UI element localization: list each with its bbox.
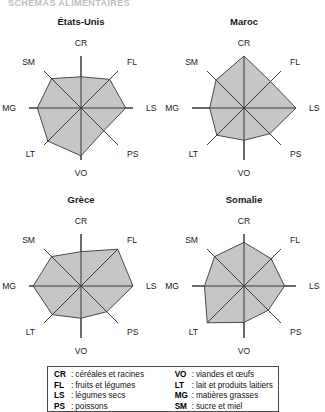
legend-item: MG:matières grasses — [175, 391, 274, 402]
legend-item: PS:poissons — [54, 402, 169, 412]
legend-item: FL:fruits et légumes — [54, 381, 169, 392]
axis-label-mg: MG — [165, 103, 179, 113]
legend-box: CR:céréales et racines FL:fruits et légu… — [47, 366, 279, 412]
axis-label-ls: LS — [146, 103, 157, 113]
radar-data-polygon — [204, 242, 284, 322]
axis-label-lt: LT — [189, 327, 199, 337]
radar-panel-somalie: Somalie CRFLLSPSVOLTMGSM — [163, 194, 325, 372]
legend-column-left: CR:céréales et racines FL:fruits et légu… — [54, 370, 169, 412]
legend-text: sucre et miel — [196, 402, 242, 412]
axis-label-vo: VO — [238, 168, 251, 178]
radar-chart-somalie: CRFLLSPSVOLTMGSM — [163, 206, 325, 370]
axis-label-vo: VO — [75, 346, 88, 356]
legend-text: fruits et légumes — [75, 381, 135, 392]
axis-label-sm: SM — [22, 57, 35, 67]
axis-label-mg: MG — [165, 281, 179, 291]
axis-label-ps: PS — [290, 327, 302, 337]
axis-label-cr: CR — [238, 38, 250, 48]
radar-data-polygon — [37, 77, 125, 156]
axis-label-sm: SM — [185, 235, 198, 245]
radar-panel-etats-unis: États-Unis CRFLLSPSVOLTMGSM — [0, 16, 162, 194]
legend-text: céréales et racines — [75, 370, 144, 381]
legend-text: lait et produits laitiers — [196, 381, 273, 392]
legend-item: LT:lait et produits laitiers — [175, 381, 274, 392]
legend-abbr: VO — [175, 370, 192, 381]
radar-axes-overlay — [192, 56, 296, 160]
axis-label-lt: LT — [26, 327, 36, 337]
radar-chart-etats-unis: CRFLLSPSVOLTMGSM — [0, 28, 162, 192]
axis-label-ls: LS — [309, 281, 320, 291]
axis-label-fl: FL — [127, 57, 137, 67]
axis-label-ls: LS — [146, 281, 157, 291]
axis-label-fl: FL — [290, 57, 300, 67]
radar-data-polygon — [210, 56, 296, 140]
panel-title-somalie: Somalie — [163, 194, 325, 205]
legend-item: LS:légumes secs — [54, 391, 169, 402]
axis-label-cr: CR — [238, 216, 250, 226]
legend-text: poissons — [75, 402, 107, 412]
radar-axes-overlay — [29, 234, 133, 338]
axis-label-ps: PS — [127, 149, 139, 159]
axis-label-ps: PS — [290, 149, 302, 159]
panel-title-maroc: Maroc — [163, 16, 325, 27]
legend-abbr: FL — [54, 381, 71, 392]
legend-text: matières grasses — [196, 391, 258, 402]
radar-chart-maroc: CRFLLSPSVOLTMGSM — [163, 28, 325, 192]
axis-label-mg: MG — [2, 281, 16, 291]
axis-label-fl: FL — [127, 235, 137, 245]
legend-abbr: LT — [175, 381, 192, 392]
legend-item: VO:viandes et œufs — [175, 370, 274, 381]
axis-label-ls: LS — [309, 103, 320, 113]
legend-abbr: LS — [54, 391, 71, 402]
figure-caption: SCHEMAS ALIMENTAIRES — [8, 0, 130, 8]
axis-label-ps: PS — [127, 327, 139, 337]
panel-title-etats-unis: États-Unis — [0, 16, 162, 27]
axis-label-fl: FL — [290, 235, 300, 245]
legend-item: CR:céréales et racines — [54, 370, 169, 381]
radar-axes-overlay — [192, 234, 296, 338]
legend-text: viandes et œufs — [196, 370, 254, 381]
axis-label-sm: SM — [185, 57, 198, 67]
legend-abbr: CR — [54, 370, 71, 381]
radar-axes-overlay — [29, 56, 133, 160]
legend-abbr: SM — [175, 402, 192, 412]
axis-label-lt: LT — [26, 149, 36, 159]
axis-label-lt: LT — [189, 149, 199, 159]
legend-abbr: MG — [175, 391, 192, 402]
radar-panel-grece: Grèce CRFLLSPSVOLTMGSM — [0, 194, 162, 372]
legend-text: légumes secs — [75, 391, 125, 402]
axis-label-cr: CR — [75, 38, 87, 48]
radar-chart-grece: CRFLLSPSVOLTMGSM — [0, 206, 162, 370]
axis-label-vo: VO — [238, 346, 251, 356]
axis-label-vo: VO — [75, 168, 88, 178]
axis-label-cr: CR — [75, 216, 87, 226]
radar-panel-maroc: Maroc CRFLLSPSVOLTMGSM — [163, 16, 325, 194]
legend-column-right: VO:viandes et œufs LT:lait et produits l… — [175, 370, 274, 412]
axis-label-mg: MG — [2, 103, 16, 113]
axis-label-sm: SM — [22, 235, 35, 245]
legend-abbr: PS — [54, 402, 71, 412]
panel-title-grece: Grèce — [0, 194, 162, 205]
legend-item: SM:sucre et miel — [175, 402, 274, 412]
